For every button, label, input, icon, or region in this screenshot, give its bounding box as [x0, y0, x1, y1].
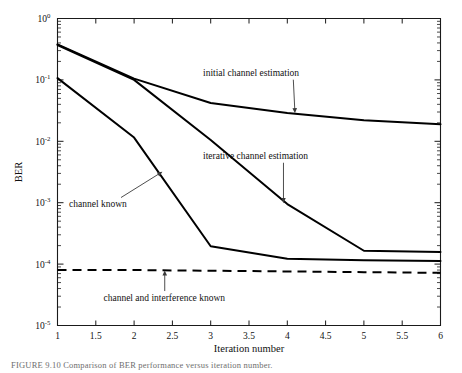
annotation-label: iterative channel estimation — [203, 151, 308, 161]
x-axis-title: Iteration number — [214, 343, 285, 354]
x-tick-label: 2 — [132, 331, 137, 341]
annotation-group: initial channel estimationiterative chan… — [69, 68, 308, 302]
x-tick-label: 1.5 — [90, 331, 102, 341]
x-tick-label: 6 — [438, 331, 443, 341]
annotation-leader — [293, 80, 294, 111]
y-tick-label: 10-3 — [35, 196, 51, 208]
x-tick-label: 5 — [362, 331, 367, 341]
x-tick-label: 4.5 — [320, 331, 332, 341]
figure-container: 11.522.533.544.555.56 10-510-410-310-210… — [0, 0, 462, 373]
annotation-label: channel known — [69, 199, 127, 209]
series-line — [58, 270, 441, 273]
y-tick-label: 10-5 — [35, 319, 51, 331]
annotation-leader — [121, 173, 160, 197]
y-axis-ticks: 10-510-410-310-210-1100 — [35, 12, 440, 331]
x-tick-label: 3 — [208, 331, 213, 341]
series-line — [58, 44, 441, 124]
x-tick-label: 3.5 — [243, 331, 255, 341]
series-line — [58, 78, 441, 261]
x-tick-label: 2.5 — [166, 331, 178, 341]
y-tick-label: 10-4 — [35, 258, 51, 270]
annotation-label: initial channel estimation — [203, 68, 299, 78]
annotation-label: channel and interference known — [103, 293, 225, 303]
x-tick-label: 5.5 — [396, 331, 408, 341]
y-axis-title: BER — [13, 162, 24, 182]
x-tick-label: 4 — [285, 331, 290, 341]
ber-vs-iteration-chart: 11.522.533.544.555.56 10-510-410-310-210… — [0, 0, 462, 373]
figure-caption: FIGURE 9.10 Comparison of BER performanc… — [11, 360, 273, 373]
x-tick-label: 1 — [55, 331, 60, 341]
y-tick-label: 100 — [38, 12, 52, 24]
y-tick-label: 10-2 — [35, 135, 51, 147]
y-tick-label: 10-1 — [35, 73, 50, 85]
